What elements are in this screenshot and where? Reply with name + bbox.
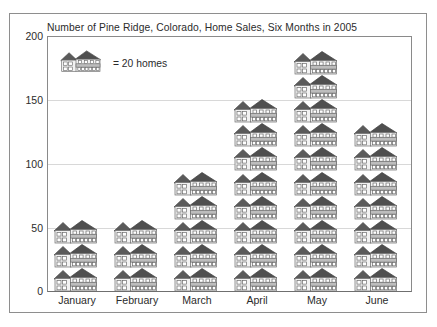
x-axis: January February March April May June [48, 294, 411, 314]
house-icon [231, 122, 283, 146]
house-icon [111, 243, 163, 267]
y-tick-150: 150 [3, 95, 43, 105]
house-icon [291, 122, 343, 146]
house-icon [291, 219, 343, 243]
house-icon [291, 146, 343, 170]
house-icon [231, 219, 283, 243]
house-icon [291, 98, 343, 122]
house-icon [231, 267, 283, 291]
house-icon [291, 195, 343, 219]
house-icon [231, 195, 283, 219]
y-axis: 200 150 100 50 0 [0, 0, 43, 327]
house-icon [171, 219, 223, 243]
house-icon [51, 243, 103, 267]
house-icon [291, 50, 343, 74]
house-icon [231, 243, 283, 267]
house-icon [231, 146, 283, 170]
house-icon [291, 74, 343, 98]
x-tick-june: June [342, 294, 412, 306]
house-icon [111, 267, 163, 291]
house-icon [171, 267, 223, 291]
y-tick-100: 100 [3, 159, 43, 169]
house-icon [231, 98, 283, 122]
house-icon [351, 146, 403, 170]
house-icon [291, 267, 343, 291]
pictograph-column-january [48, 219, 106, 291]
house-icon [291, 171, 343, 195]
y-tick-200: 200 [3, 31, 43, 41]
page-title: Number of Pine Ridge, Colorado, Home Sal… [47, 22, 357, 33]
pictograph-column-february [108, 219, 166, 291]
house-icon [351, 195, 403, 219]
y-tick-50: 50 [3, 223, 43, 233]
house-icon [351, 219, 403, 243]
house-icon [351, 243, 403, 267]
house-icon [111, 219, 163, 243]
pictograph-columns [48, 37, 411, 291]
pictograph-column-june [348, 122, 406, 291]
house-icon [171, 195, 223, 219]
pictograph-column-march [168, 171, 226, 291]
house-icon [231, 171, 283, 195]
house-icon [51, 219, 103, 243]
house-icon [351, 267, 403, 291]
house-icon [351, 171, 403, 195]
chart-page: Number of Pine Ridge, Colorado, Home Sal… [0, 0, 437, 327]
house-icon [171, 171, 223, 195]
house-icon [291, 243, 343, 267]
pictograph-column-may [288, 50, 346, 291]
house-icon [351, 122, 403, 146]
house-icon [171, 243, 223, 267]
pictograph-column-april [228, 98, 286, 291]
y-tick-0: 0 [3, 286, 43, 296]
house-icon [51, 267, 103, 291]
